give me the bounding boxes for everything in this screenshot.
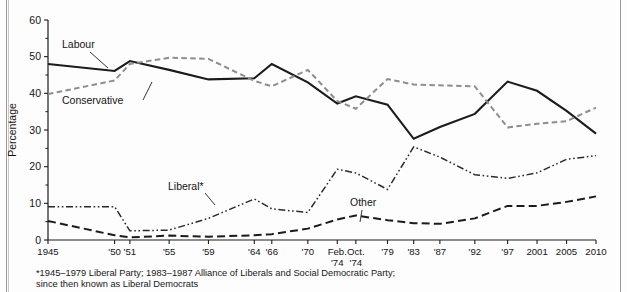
- x-tick-label: Oct.: [347, 246, 365, 257]
- data-series: [48, 58, 596, 238]
- x-tick-label: 2010: [585, 246, 606, 257]
- series-label-liberal: Liberal*: [168, 180, 204, 192]
- axis-ticks: [44, 20, 596, 244]
- x-tick-label: '66: [266, 246, 279, 257]
- line-chart: 0102030405060 1945'50'51'55'59'64'66'70F…: [0, 0, 627, 292]
- x-tick-label: '97: [501, 246, 514, 257]
- y-tick-label: 10: [29, 197, 41, 209]
- y-tick-labels: 0102030405060: [29, 14, 41, 246]
- x-tick-label-second-line: '74: [331, 257, 344, 268]
- x-tick-label: '59: [202, 246, 215, 257]
- footnote: *1945–1979 Liberal Party; 1983–1987 Alli…: [36, 268, 596, 291]
- y-tick-label: 20: [29, 160, 41, 172]
- x-tick-label: '87: [434, 246, 447, 257]
- y-axis-title-text: Percentage: [6, 103, 18, 157]
- series-line-liberal: [48, 147, 596, 231]
- x-tick-label: '70: [302, 246, 315, 257]
- series-label-other: Other: [350, 196, 377, 208]
- plot-area: 0102030405060 1945'50'51'55'59'64'66'70F…: [0, 0, 627, 292]
- x-tick-label: 2001: [526, 246, 547, 257]
- y-tick-label: 50: [29, 50, 41, 62]
- x-tick-label: '50: [108, 246, 121, 257]
- y-axis-title: Percentage: [6, 103, 18, 157]
- x-tick-label: Feb.: [328, 246, 347, 257]
- leader-line: [143, 82, 152, 100]
- y-tick-label: 0: [35, 234, 41, 246]
- series-line-labour: [48, 61, 596, 139]
- x-tick-label: '64: [248, 246, 261, 257]
- x-tick-labels: 1945'50'51'55'59'64'66'70Feb.'74Oct.'74'…: [37, 246, 606, 268]
- leader-line: [205, 193, 215, 205]
- x-tick-label: 2005: [556, 246, 577, 257]
- y-tick-label: 40: [29, 87, 41, 99]
- figure-panel: 0102030405060 1945'50'51'55'59'64'66'70F…: [0, 0, 627, 292]
- x-tick-label: '83: [407, 246, 420, 257]
- x-tick-label: '51: [124, 246, 137, 257]
- series-label-labour: Labour: [62, 38, 95, 50]
- footnote-line-1: *1945–1979 Liberal Party; 1983–1987 Alli…: [36, 268, 596, 279]
- leader-line: [90, 52, 108, 68]
- x-tick-label-second-line: '74: [350, 257, 363, 268]
- x-tick-label: '79: [381, 246, 394, 257]
- footnote-line-2: since then known as Liberal Democrats: [36, 279, 596, 290]
- y-tick-label: 60: [29, 14, 41, 26]
- y-tick-label: 30: [29, 124, 41, 136]
- series-label-conservative: Conservative: [62, 94, 123, 106]
- axis-lines: [48, 20, 596, 240]
- x-tick-label: '55: [163, 246, 176, 257]
- x-tick-label: '92: [469, 246, 482, 257]
- series-annotations: LabourConservativeLiberal*Other: [62, 38, 377, 222]
- x-tick-label: 1945: [37, 246, 58, 257]
